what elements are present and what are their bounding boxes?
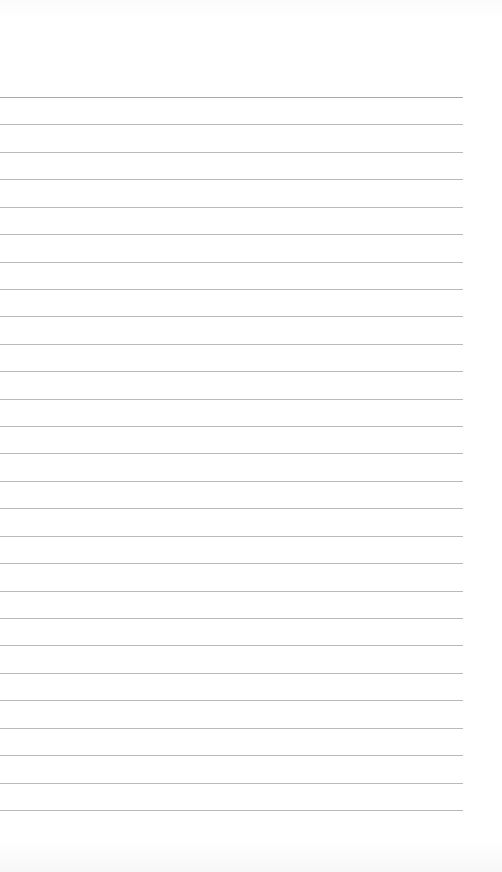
ruled-line	[0, 508, 463, 509]
ruled-line	[0, 700, 463, 701]
ruled-line	[0, 371, 463, 372]
ruled-line	[0, 97, 463, 98]
ruled-line	[0, 673, 463, 674]
ruled-line	[0, 536, 463, 537]
ruled-line	[0, 591, 463, 592]
ruled-line	[0, 399, 463, 400]
ruled-line	[0, 124, 463, 125]
ruled-line	[0, 783, 463, 784]
ruled-line	[0, 481, 463, 482]
ruled-line	[0, 234, 463, 235]
ruled-line	[0, 563, 463, 564]
ruled-line	[0, 755, 463, 756]
ruled-line	[0, 645, 463, 646]
ruled-line	[0, 810, 463, 811]
ruled-line	[0, 179, 463, 180]
ruled-line	[0, 152, 463, 153]
ruled-line	[0, 207, 463, 208]
ruled-line	[0, 289, 463, 290]
ruled-line	[0, 262, 463, 263]
ruled-line	[0, 618, 463, 619]
ruled-line	[0, 728, 463, 729]
ruled-line	[0, 453, 463, 454]
lined-paper-sheet	[0, 0, 502, 872]
ruled-line	[0, 426, 463, 427]
ruled-line	[0, 344, 463, 345]
ruled-line	[0, 316, 463, 317]
